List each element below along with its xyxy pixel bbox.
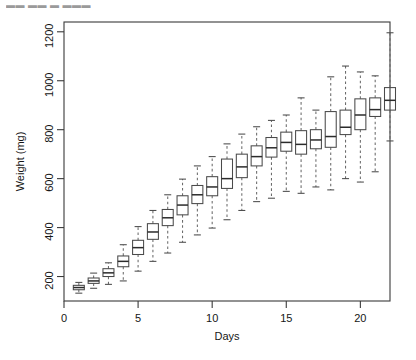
chart-page: ▬▬ ▬▬ ▬ ▬▬▬ 2004006008001000120005101520… <box>0 0 416 360</box>
x-tick-label-10: 10 <box>206 312 218 324</box>
boxplot-day-21 <box>370 76 381 172</box>
y-tick-label-600: 600 <box>43 173 55 191</box>
boxplot-day-12 <box>236 134 247 210</box>
boxplot-day-6 <box>147 210 158 261</box>
x-tick-label-5: 5 <box>135 312 141 324</box>
box-iqr <box>296 131 307 154</box>
boxplot-day-11 <box>222 144 233 220</box>
y-tick-label-1000: 1000 <box>43 72 55 96</box>
boxplot-day-14 <box>266 120 277 198</box>
x-tick-label-0: 0 <box>61 312 67 324</box>
boxplot-day-19 <box>340 66 351 179</box>
boxplot-day-16 <box>296 98 307 193</box>
x-axis-title: Days <box>214 330 240 342</box>
box-iqr <box>340 110 351 134</box>
plot-frame <box>64 22 390 301</box>
boxplot-day-3 <box>103 263 114 285</box>
y-axis-title: Weight (mg) <box>14 132 26 192</box>
boxplot-day-7 <box>162 195 173 253</box>
box-iqr <box>325 112 336 148</box>
y-tick-label-400: 400 <box>43 222 55 240</box>
boxplot-day-10 <box>207 157 218 228</box>
boxplot-day-9 <box>192 166 203 235</box>
box-iqr <box>236 154 247 177</box>
boxplot-day-1 <box>73 282 84 293</box>
boxplot-day-2 <box>88 273 99 288</box>
boxplot-day-17 <box>310 110 321 187</box>
y-tick-label-800: 800 <box>43 125 55 143</box>
x-tick-label-15: 15 <box>280 312 292 324</box>
boxplot-day-4 <box>118 245 129 281</box>
boxplot-day-20 <box>355 72 366 182</box>
boxplot-day-5 <box>133 227 144 272</box>
box-iqr <box>222 159 233 188</box>
boxplot-figure: 2004006008001000120005101520DaysWeight (… <box>0 0 416 360</box>
boxplot-day-13 <box>251 127 262 202</box>
y-tick-label-200: 200 <box>43 271 55 289</box>
boxplot-day-15 <box>281 115 292 191</box>
boxplot-day-8 <box>177 179 188 242</box>
box-iqr <box>370 98 381 117</box>
boxplot-day-18 <box>325 77 336 190</box>
x-tick-label-20: 20 <box>354 312 366 324</box>
y-tick-label-1200: 1200 <box>43 24 55 48</box>
